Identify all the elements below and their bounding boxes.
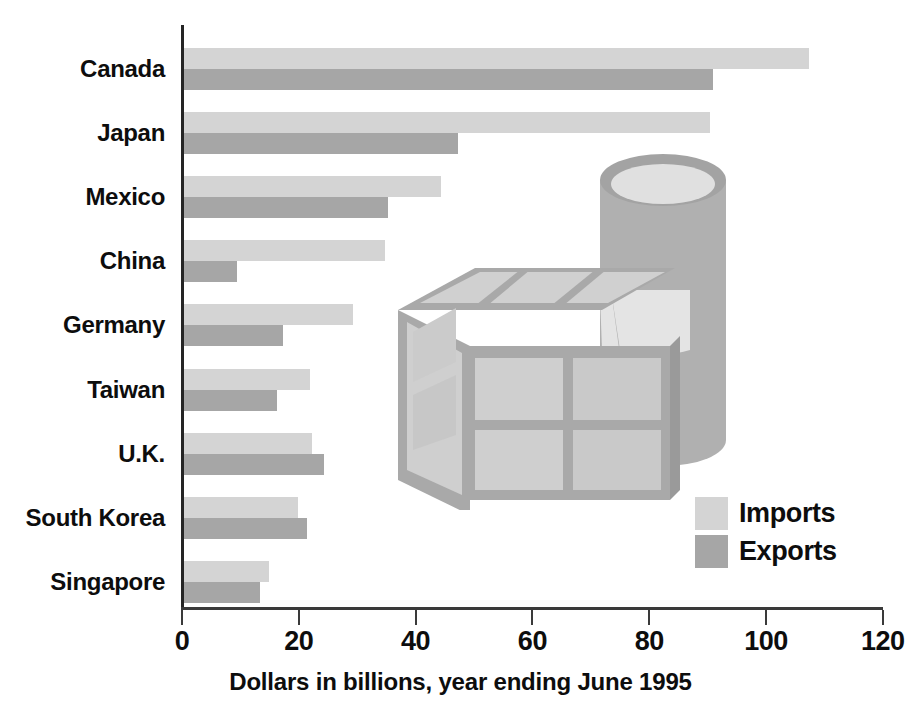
x-axis-title: Dollars in billions, year ending June 19… [0,668,921,696]
bar-taiwan-imports [184,369,310,390]
bar-u-k-exports [184,454,324,475]
x-tick-60 [531,610,533,625]
chart-legend: Imports Exports [695,494,837,570]
bar-u-k-imports [184,433,312,454]
x-tick-0 [181,610,183,625]
legend-swatch-exports [695,535,728,568]
bar-chart-figure: 020406080100120 CanadaJapanMexicoChinaGe… [0,0,921,717]
bar-germany-imports [184,304,353,325]
legend-item-exports: Exports [695,532,837,570]
legend-label-imports: Imports [739,500,835,527]
crate-icon [398,268,680,510]
bar-south-korea-imports [184,497,298,518]
x-tick-100 [765,610,767,625]
x-tick-40 [415,610,417,625]
bar-japan-exports [184,133,458,154]
bar-mexico-exports [184,197,388,218]
bar-japan-imports [184,112,710,133]
bar-singapore-imports [184,561,269,582]
x-tick-label-20: 20 [284,626,313,657]
legend-label-exports: Exports [739,538,837,565]
x-tick-label-120: 120 [861,626,905,657]
legend-item-imports: Imports [695,494,837,532]
x-tick-label-100: 100 [744,626,788,657]
category-label-canada: Canada [80,55,165,83]
bar-taiwan-exports [184,390,277,411]
legend-swatch-imports [695,497,728,530]
bar-mexico-imports [184,176,441,197]
bar-canada-exports [184,69,713,90]
plot-area: 020406080100120 CanadaJapanMexicoChinaGe… [0,0,921,717]
x-tick-20 [298,610,300,625]
x-tick-label-80: 80 [635,626,664,657]
category-label-germany: Germany [63,311,165,339]
category-label-japan: Japan [97,119,165,147]
bar-canada-imports [184,48,809,69]
bar-south-korea-exports [184,518,307,539]
bar-germany-exports [184,325,283,346]
x-tick-120 [882,610,884,625]
x-tick-label-40: 40 [401,626,430,657]
bar-singapore-exports [184,582,260,603]
bar-china-imports [184,240,385,261]
category-label-u-k: U.K. [118,440,165,468]
category-label-south-korea: South Korea [26,504,165,532]
x-tick-label-60: 60 [518,626,547,657]
x-tick-label-0: 0 [175,626,190,657]
x-tick-80 [648,610,650,625]
bar-china-exports [184,261,237,282]
barrel-icon [600,154,726,466]
category-label-singapore: Singapore [50,568,165,596]
category-label-taiwan: Taiwan [87,376,165,404]
category-label-china: China [100,247,165,275]
category-label-mexico: Mexico [85,183,165,211]
crate-and-barrel-illustration [380,150,780,510]
